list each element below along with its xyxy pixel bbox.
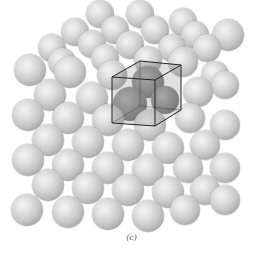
lattice-sphere: [52, 196, 84, 228]
lattice-sphere: [175, 103, 205, 133]
lattice-sphere: [211, 71, 239, 99]
lattice-sphere: [170, 195, 200, 225]
figure-caption: (c): [0, 233, 263, 242]
lattice-sphere: [132, 200, 164, 232]
lattice-sphere: [92, 198, 124, 230]
lattice-sphere: [210, 185, 240, 215]
lattice-sphere: [168, 47, 198, 77]
crystal-lattice-diagram: [0, 0, 263, 254]
lattice-sphere: [11, 194, 43, 226]
lattice-sphere: [32, 169, 64, 201]
